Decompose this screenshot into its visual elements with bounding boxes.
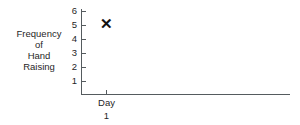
y-tick-label-3: 3 — [72, 47, 77, 58]
y-axis-title-line-2: of — [35, 39, 43, 50]
y-tick-label-1: 1 — [72, 75, 77, 86]
data-point-marker-day-1: ✕ — [100, 15, 113, 32]
x-axis-title: Day — [98, 97, 115, 108]
chart-container: 6 5 4 3 2 1 Frequency of Hand Raising Da… — [0, 0, 300, 125]
x-tick-label-1: 1 — [104, 110, 109, 121]
y-axis-tick-labels: 6 5 4 3 2 1 — [72, 5, 77, 86]
y-tick-label-4: 4 — [72, 33, 77, 44]
y-tick-label-5: 5 — [72, 19, 77, 30]
x-axis-category-label: Day 1 — [98, 97, 115, 121]
y-axis-title-line-3: Hand — [28, 50, 51, 61]
y-axis-title: Frequency of Hand Raising — [17, 28, 62, 72]
scatter-chart: 6 5 4 3 2 1 Frequency of Hand Raising Da… — [0, 0, 300, 125]
y-axis-ticks — [82, 12, 87, 82]
y-tick-label-6: 6 — [72, 5, 77, 16]
y-axis-title-line-4: Raising — [23, 61, 55, 72]
y-axis-title-line-1: Frequency — [17, 28, 62, 39]
y-tick-label-2: 2 — [72, 61, 77, 72]
